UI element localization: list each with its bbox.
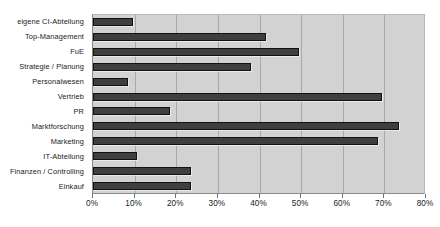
bar-row [93,119,424,134]
bar [93,78,128,86]
category-axis: eigene CI-AbteilungTop-ManagementFuEStra… [0,14,88,194]
axis-tick-label: 70% [375,199,392,208]
axis-tick-label: 30% [209,199,226,208]
category-label: eigene CI-Abteilung [0,14,88,29]
bar-row [93,178,424,193]
plot-area [92,14,425,194]
bar-row [93,59,424,74]
category-label: Marktforschung [0,119,88,134]
axis-tick-mark [175,194,176,198]
bar [93,137,378,145]
category-label: Einkauf [0,179,88,194]
bar [93,152,137,160]
axis-tick-label: 10% [125,199,142,208]
bar-row [93,89,424,104]
bar [93,63,251,71]
category-label: Vertrieb [0,89,88,104]
horizontal-bar-chart: eigene CI-AbteilungTop-ManagementFuEStra… [0,0,440,227]
bar [93,167,191,175]
bar-row [93,45,424,60]
axis-tick-mark [383,194,384,198]
category-label: Finanzen / Controlling [0,164,88,179]
axis-tick-label: 80% [417,199,434,208]
category-label: Top-Management [0,29,88,44]
bars-layer [93,15,424,193]
axis-tick-label: 0% [86,199,98,208]
category-label: IT-Abteilung [0,149,88,164]
bar [93,33,266,41]
axis-tick-mark [259,194,260,198]
bar [93,18,133,26]
bar [93,93,382,101]
bar-row [93,30,424,45]
bar-row [93,104,424,119]
axis-tick-mark [342,194,343,198]
bar [93,107,170,115]
axis-tick-mark [92,194,93,198]
bar [93,48,299,56]
category-label: Marketing [0,134,88,149]
axis-tick-label: 20% [167,199,184,208]
category-label: Strategie / Planung [0,59,88,74]
category-label: PR [0,104,88,119]
axis-tick-mark [425,194,426,198]
axis-tick-mark [300,194,301,198]
axis-tick-label: 50% [292,199,309,208]
bar [93,122,399,130]
bar-row [93,163,424,178]
axis-tick-label: 40% [250,199,267,208]
bar-row [93,134,424,149]
value-axis: 0%10%20%30%40%50%60%70%80% [92,194,425,220]
category-label: Personalwesen [0,74,88,89]
category-label: FuE [0,44,88,59]
bar-row [93,74,424,89]
bar-row [93,15,424,30]
bar [93,182,191,190]
axis-tick-mark [217,194,218,198]
axis-tick-mark [134,194,135,198]
axis-tick-label: 60% [333,199,350,208]
bar-row [93,148,424,163]
